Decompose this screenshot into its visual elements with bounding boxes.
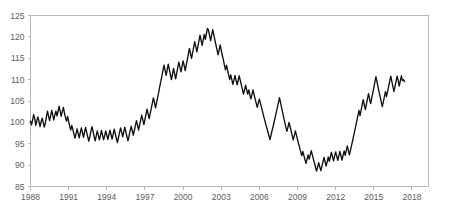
x-tick-label: 1988 [21,192,40,202]
y-tick-label: 110 [11,75,25,85]
y-axis-group: 859095100105110115120125 [10,11,30,192]
x-tick-label: 2000 [174,192,193,202]
y-tick-label: 95 [15,139,25,149]
y-tick-label: 115 [11,53,25,63]
x-tick-label: 2015 [364,192,383,202]
x-tick-label: 2012 [326,192,345,202]
y-axis-ticks: 859095100105110115120125 [10,11,30,192]
x-tick-label: 2018 [403,192,422,202]
chart-canvas: 859095100105110115120125 198819911994199… [0,0,449,219]
y-tick-label: 120 [10,32,24,42]
x-tick-label: 2006 [250,192,269,202]
x-tick-label: 1997 [135,192,154,202]
y-tick-label: 125 [10,11,24,21]
line-chart-figure: 859095100105110115120125 198819911994199… [0,0,449,219]
x-tick-label: 2003 [212,192,231,202]
data-series-group [31,28,405,171]
y-tick-label: 85 [15,182,25,192]
y-tick-label: 90 [15,160,25,170]
plot-frame-group [31,16,429,187]
x-axis-ticks: 1988199119941997200020032006200920122015… [21,187,422,202]
data-series-line [31,28,405,171]
x-axis-group: 1988199119941997200020032006200920122015… [21,187,428,202]
x-tick-label: 1994 [97,192,116,202]
y-tick-label: 105 [10,96,24,106]
x-tick-label: 1991 [59,192,78,202]
x-tick-label: 2009 [288,192,307,202]
y-tick-label: 100 [10,117,24,127]
